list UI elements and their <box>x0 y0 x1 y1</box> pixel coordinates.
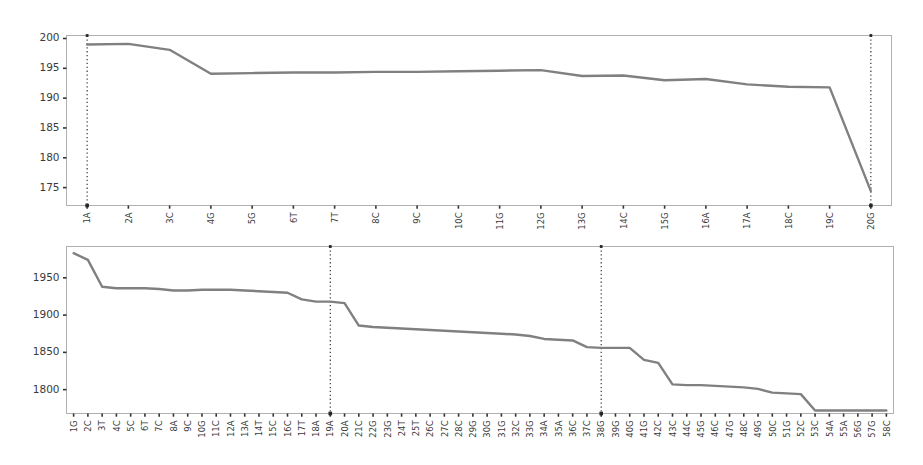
x-tick-label: 14T <box>254 420 264 437</box>
top-data-line <box>87 44 871 191</box>
x-tick-label: 26C <box>425 420 435 437</box>
y-tick-label: 175 <box>39 181 59 193</box>
x-tick-label: 11C <box>211 420 221 437</box>
x-tick-label: 35A <box>554 420 564 437</box>
y-tick-label: 1950 <box>33 271 60 283</box>
vertical-marker-bottom-dot <box>328 412 332 416</box>
vertical-marker-bottom-dot <box>599 412 603 416</box>
x-tick-label: 14C <box>619 212 629 229</box>
x-tick-label: 7C <box>154 420 164 431</box>
x-tick-label: 25T <box>411 420 421 437</box>
x-tick-label: 45G <box>696 421 706 438</box>
x-tick-label: 2C <box>83 420 93 431</box>
x-tick-label: 52C <box>796 420 806 437</box>
x-tick-label: 31G <box>497 421 507 438</box>
x-tick-label: 18C <box>784 212 794 229</box>
bottom-data-line <box>74 253 887 410</box>
x-tick-label: 41G <box>639 421 649 438</box>
x-tick-label: 43C <box>668 420 678 437</box>
bottom-chart-svg: 1800185019001950 1G2C3T4C5C6T7C8A9C10G11… <box>0 232 923 465</box>
x-tick-label: 11G <box>495 213 505 230</box>
x-tick-label: 9C <box>412 212 422 223</box>
x-tick-label: 4C <box>112 420 122 431</box>
x-tick-label: 28C <box>454 420 464 437</box>
coverage-figure: 175180185190195200 1A2A3C4G5G6T7T8C9C10C… <box>0 0 923 465</box>
x-tick-label: 24T <box>397 420 407 437</box>
bottom-plot-frame <box>67 247 894 414</box>
x-tick-label: 57G <box>867 421 877 438</box>
x-tick-label: 39G <box>611 421 621 438</box>
x-tick-label: 20G <box>866 213 876 230</box>
bottom-x-axis: 1G2C3T4C5C6T7C8A9C10G11C12A13A14T15C16C1… <box>69 414 892 438</box>
x-tick-label: 22G <box>368 421 378 438</box>
x-tick-label: 16C <box>283 420 293 437</box>
x-tick-label: 10G <box>197 421 207 438</box>
x-tick-label: 40G <box>625 421 635 438</box>
x-tick-label: 36C <box>568 420 578 437</box>
bottom-vertical-markers <box>328 245 603 415</box>
top-x-axis: 1A2A3C4G5G6T7T8C9C10C11G12G13G14C15G16A1… <box>82 206 876 230</box>
vertical-marker-top-dot <box>869 34 872 37</box>
vertical-marker-top-dot <box>329 245 332 248</box>
x-tick-label: 48C <box>739 420 749 437</box>
x-tick-label: 50C <box>768 420 778 437</box>
x-tick-label: 15C <box>268 420 278 437</box>
top-chart-svg: 175180185190195200 1A2A3C4G5G6T7T8C9C10C… <box>0 0 923 232</box>
y-tick-label: 185 <box>39 121 59 133</box>
x-tick-label: 2A <box>124 212 134 223</box>
x-tick-label: 33G <box>525 421 535 438</box>
x-tick-label: 13G <box>577 213 587 230</box>
x-tick-label: 4G <box>206 213 216 225</box>
x-tick-label: 3T <box>97 420 107 431</box>
x-tick-label: 10C <box>454 212 464 229</box>
x-tick-label: 8C <box>371 212 381 223</box>
x-tick-label: 3C <box>165 212 175 223</box>
x-tick-label: 30G <box>482 421 492 438</box>
x-tick-label: 27C <box>440 420 450 437</box>
x-tick-label: 56G <box>853 421 863 438</box>
x-tick-label: 18A <box>311 420 321 437</box>
y-tick-label: 1800 <box>33 383 60 395</box>
x-tick-label: 6T <box>140 420 150 431</box>
y-tick-label: 195 <box>39 61 59 73</box>
vertical-marker-bottom-dot <box>85 204 89 208</box>
x-tick-label: 34A <box>539 420 549 437</box>
x-tick-label: 6T <box>289 212 299 223</box>
x-tick-label: 21C <box>354 420 364 437</box>
bottom-chart-panel: 1800185019001950 1G2C3T4C5C6T7C8A9C10G11… <box>0 232 923 465</box>
x-tick-label: 17T <box>297 420 307 437</box>
y-tick-label: 1900 <box>33 308 60 320</box>
y-tick-label: 1850 <box>33 345 60 357</box>
bottom-y-axis: 1800185019001950 <box>33 271 67 395</box>
y-tick-label: 180 <box>39 151 59 163</box>
top-vertical-markers <box>85 34 872 207</box>
x-tick-label: 9C <box>183 420 193 431</box>
x-tick-label: 1G <box>69 421 79 433</box>
x-tick-label: 51G <box>782 421 792 438</box>
x-tick-label: 7T <box>330 212 340 223</box>
x-tick-label: 55A <box>839 420 849 437</box>
x-tick-label: 5G <box>247 213 257 225</box>
vertical-marker-top-dot <box>86 34 89 37</box>
x-tick-label: 1A <box>82 212 92 223</box>
x-tick-label: 54A <box>825 420 835 437</box>
x-tick-label: 37C <box>582 420 592 437</box>
x-tick-label: 8A <box>169 420 179 431</box>
x-tick-label: 44C <box>682 420 692 437</box>
x-tick-label: 29G <box>468 421 478 438</box>
y-tick-label: 190 <box>39 91 59 103</box>
top-chart-panel: 175180185190195200 1A2A3C4G5G6T7T8C9C10C… <box>0 0 923 232</box>
x-tick-label: 49G <box>753 421 763 438</box>
x-tick-label: 19A <box>325 420 335 437</box>
x-tick-label: 15G <box>660 213 670 230</box>
top-y-axis: 175180185190195200 <box>39 31 66 192</box>
x-tick-label: 5C <box>126 420 136 431</box>
x-tick-label: 12A <box>226 420 236 437</box>
x-tick-label: 12G <box>536 213 546 230</box>
x-tick-label: 19C <box>825 212 835 229</box>
x-tick-label: 16A <box>701 212 711 229</box>
x-tick-label: 32C <box>511 420 521 437</box>
x-tick-label: 42C <box>653 420 663 437</box>
vertical-marker-top-dot <box>600 245 603 248</box>
x-tick-label: 47G <box>725 421 735 438</box>
